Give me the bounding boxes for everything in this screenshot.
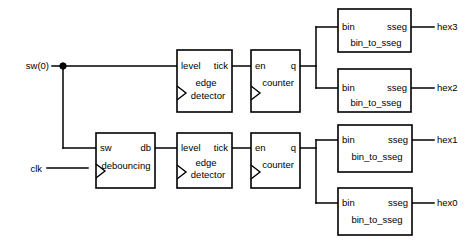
block-name-line1: edge [195, 77, 216, 88]
block-body [338, 125, 412, 172]
port-label-input: bin [342, 21, 355, 32]
signal-label-hex1: hex1 [437, 134, 458, 145]
block-diagram-canvas: level tick edge detector en q counter bi… [0, 0, 475, 246]
signal-label-hex3: hex3 [437, 21, 458, 32]
block-bin-to-sseg-hex1[interactable]: bin sseg bin_to_sseg [338, 125, 412, 172]
port-label-output: q [291, 60, 296, 71]
block-bin-to-sseg-hex3[interactable]: bin sseg bin_to_sseg [338, 9, 411, 52]
port-label-input: bin [342, 82, 355, 93]
block-edge-detector-top[interactable]: level tick edge detector [177, 50, 232, 112]
signal-label-clk: clk [30, 163, 42, 174]
block-name-line1: bin_to_sseg [350, 97, 401, 108]
port-label-output: q [291, 142, 296, 153]
block-name-line1: counter [262, 159, 294, 170]
junction-dot-sw0 [60, 63, 66, 69]
block-body [338, 188, 412, 235]
block-debouncing[interactable]: sw db debouncing [96, 133, 155, 188]
block-counter-top[interactable]: en q counter [251, 50, 300, 112]
port-label-output: sseg [387, 82, 407, 93]
signal-label-hex0: hex0 [437, 197, 458, 208]
block-name-line1: bin_to_sseg [350, 37, 401, 48]
port-label-output: db [140, 142, 151, 153]
block-name-line1: debouncing [101, 160, 150, 171]
block-bin-to-sseg-hex0[interactable]: bin sseg bin_to_sseg [338, 188, 412, 235]
block-name-line2: detector [191, 90, 225, 101]
port-label-output: sseg [387, 21, 407, 32]
port-label-output: tick [214, 142, 229, 153]
port-label-output: tick [214, 60, 229, 71]
block-edge-detector-bottom[interactable]: level tick edge detector [177, 133, 232, 188]
port-label-input: en [255, 60, 266, 71]
block-diagram-svg: level tick edge detector en q counter bi… [0, 0, 475, 246]
port-label-input: level [181, 142, 201, 153]
port-label-output: sseg [388, 134, 408, 145]
block-name-line1: bin_to_sseg [351, 214, 402, 225]
block-counter-bottom[interactable]: en q counter [251, 133, 300, 188]
port-label-input: bin [342, 134, 355, 145]
port-label-input: bin [342, 197, 355, 208]
port-label-input: level [181, 60, 201, 71]
port-label-output: sseg [388, 197, 408, 208]
block-name-line1: edge [195, 157, 216, 168]
block-name-line1: bin_to_sseg [351, 151, 402, 162]
signal-label-sw0: sw(0) [26, 60, 49, 71]
block-name-line2: detector [191, 169, 225, 180]
signal-label-hex2: hex2 [437, 82, 458, 93]
block-bin-to-sseg-hex2[interactable]: bin sseg bin_to_sseg [338, 69, 411, 112]
port-label-input: sw [100, 142, 112, 153]
port-label-input: en [255, 142, 266, 153]
block-name-line1: counter [262, 77, 294, 88]
